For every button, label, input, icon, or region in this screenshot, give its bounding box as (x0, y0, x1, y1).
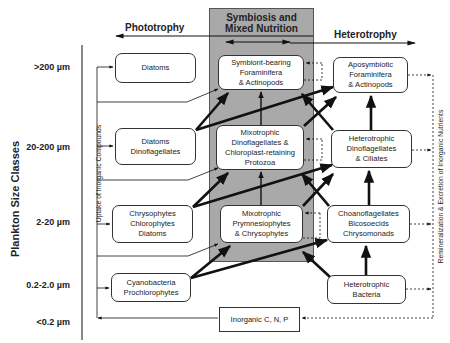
box-text: Mixotrophic (241, 128, 280, 138)
box-text: Bicosoecids (348, 219, 389, 229)
box-text: Dinoflagellates & (232, 138, 289, 148)
box-text: & Actinopods (348, 80, 392, 90)
box-aposymbiotic: Aposymbiotic Foraminifera & Actinopods (333, 57, 408, 93)
box-mixotrophic-prymnesiophytes: Mixotrophic Prymnesiophytes & Chrysophyt… (220, 205, 303, 243)
box-text: Heterotrophic (344, 280, 390, 290)
box-cyanobacteria: Cyanobacteria Prochlorophytes (111, 273, 191, 302)
box-text: Dinoflagellates (347, 144, 397, 154)
box-text: Dinoflagellates (131, 147, 181, 157)
box-text: Chloroplast-retaining (225, 148, 295, 158)
box-text: Chrysomonads (343, 229, 394, 239)
box-heterotrophic-dinoflagellates: Heterotrophic Dinoflagellates & Ciliates (331, 130, 412, 168)
box-text: Protozoa (245, 158, 275, 168)
box-text: Chlorophytes (130, 219, 175, 229)
box-chrysophytes: Chrysophytes Chlorophytes Diatoms (112, 205, 193, 243)
box-text: Foraminifera (240, 68, 283, 78)
box-text: Chrysophytes (129, 209, 175, 219)
box-text: Cyanobacteria (127, 278, 176, 288)
box-text: Aposymbiotic (348, 60, 393, 70)
box-text: Diatoms (139, 229, 167, 239)
box-mixotrophic-dinoflagellates: Mixotrophic Dinoflagellates & Chloroplas… (216, 125, 304, 170)
box-text: Symbiont-bearing (231, 58, 291, 68)
box-heterotrophic-bacteria: Heterotrophic Bacteria (327, 275, 406, 304)
box-text: & Actinopods (239, 78, 283, 88)
box-text: Prymnesiophytes (232, 219, 290, 229)
box-diatoms: Diatoms (115, 53, 196, 83)
box-text: Diatoms (142, 137, 170, 147)
box-text: Heterotrophic (349, 134, 395, 144)
box-diatoms-dinoflagellates: Diatoms Dinoflagellates (115, 128, 196, 165)
box-choanoflagellates: Choanoflagellates Bicosoecids Chrysomona… (327, 205, 410, 243)
box-text: Foraminifera (349, 70, 392, 80)
box-text: Mixotrophic (242, 209, 281, 219)
box-text: Prochlorophytes (124, 288, 179, 298)
box-text: & Ciliates (355, 154, 387, 164)
box-text: Choanoflagellates (338, 209, 399, 219)
box-text: Inorganic C, N, P (231, 315, 289, 325)
box-inorganic: Inorganic C, N, P (219, 307, 300, 332)
box-text: & Chrysophytes (235, 229, 289, 239)
box-text: Diatoms (142, 63, 170, 73)
box-text: Bacteria (353, 290, 381, 300)
box-symbiont-bearing: Symbiont-bearing Foraminifera & Actinopo… (218, 55, 304, 90)
